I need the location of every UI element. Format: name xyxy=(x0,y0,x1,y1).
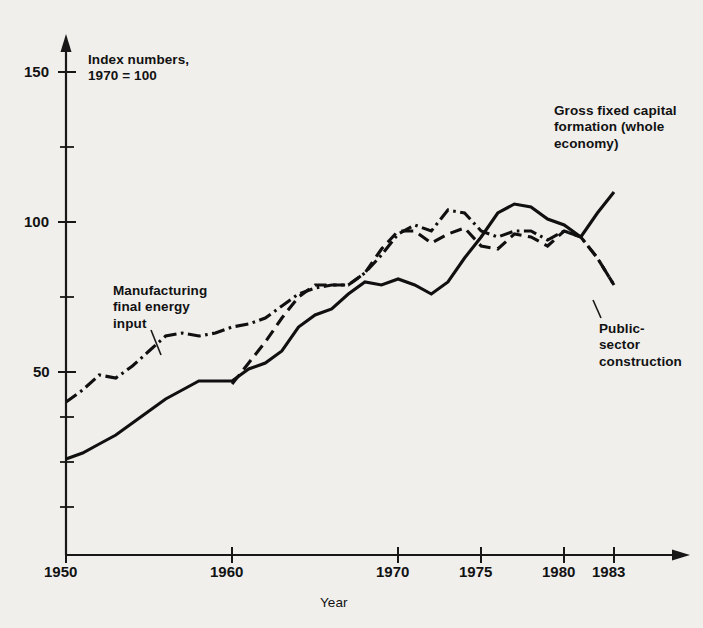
series-label-manufacturing-final-energy-input: Manufacturing final energy input xyxy=(113,283,207,332)
y-tick-label-100: 100 xyxy=(24,213,49,230)
x-tick-label-1960: 1960 xyxy=(210,563,243,580)
leader-line-public-sector xyxy=(593,300,601,318)
series-label-public-sector-construction: Public- sector construction xyxy=(599,321,682,370)
x-axis xyxy=(66,547,690,563)
index-basis-note: Index numbers, 1970 = 100 xyxy=(88,52,189,85)
y-tick-label-150: 150 xyxy=(24,63,49,80)
series-label-gross-fixed-capital-formation: Gross fixed capital formation (whole eco… xyxy=(554,103,677,152)
chart-container: 150 100 50 1950 1960 1970 1975 1980 1983… xyxy=(0,0,703,628)
x-tick-label-1980: 1980 xyxy=(542,563,575,580)
x-tick-label-1970: 1970 xyxy=(376,563,409,580)
chart-plot-area xyxy=(0,0,703,628)
x-tick-label-1975: 1975 xyxy=(459,563,492,580)
x-tick-label-1983: 1983 xyxy=(592,563,625,580)
y-axis xyxy=(58,34,76,555)
x-tick-label-1950: 1950 xyxy=(44,563,77,580)
x-axis-title: Year xyxy=(320,595,348,611)
series-line-public-sector-construction xyxy=(232,228,614,384)
y-tick-label-50: 50 xyxy=(33,363,50,380)
